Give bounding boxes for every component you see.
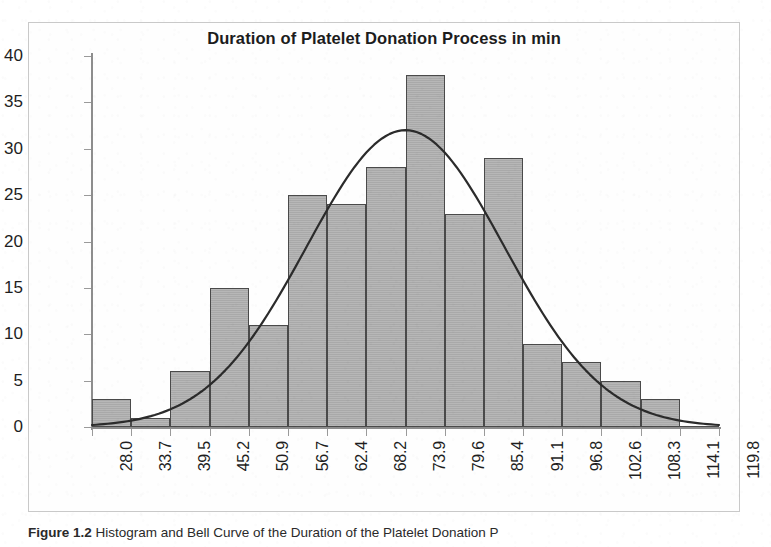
y-axis-tick-label: 35 <box>4 92 23 112</box>
x-axis-tick-label: 119.8 <box>745 441 763 479</box>
x-axis-tick-label: 102.6 <box>627 441 645 480</box>
y-axis-tick-label: 0 <box>14 417 23 437</box>
x-axis-tick <box>445 429 446 436</box>
x-axis-tick-label: 91.1 <box>549 441 567 471</box>
y-axis-tick-label: 10 <box>4 324 23 344</box>
x-axis-tick <box>366 429 367 436</box>
x-axis-tick-label: 96.8 <box>588 441 606 471</box>
y-axis-tick-label: 25 <box>4 185 23 205</box>
y-axis-tick <box>84 427 91 428</box>
x-axis-tick-label: 68.2 <box>392 441 410 471</box>
x-axis-tick <box>92 429 93 436</box>
plot-area <box>92 56 719 427</box>
x-axis-tick-label: 108.3 <box>666 441 684 480</box>
figure-frame: Duration of Platelet Donation Process in… <box>28 22 740 512</box>
y-axis-tick-label: 5 <box>14 371 23 391</box>
x-axis-tick <box>523 429 524 436</box>
chart-title: Duration of Platelet Donation Process in… <box>29 29 739 48</box>
x-axis-tick <box>327 429 328 436</box>
x-axis-tick-label: 50.9 <box>274 441 292 471</box>
y-axis-tick <box>84 242 91 243</box>
caption-text: Histogram and Bell Curve of the Duration… <box>96 525 499 540</box>
x-axis-tick <box>249 429 250 436</box>
x-axis-tick <box>288 429 289 436</box>
x-axis-tick-label: 79.6 <box>470 441 488 471</box>
caption-label: Figure 1.2 <box>28 525 92 540</box>
x-axis-tick-label: 73.9 <box>431 441 449 471</box>
x-axis-tick-label: 28.0 <box>118 441 136 471</box>
x-axis-tick <box>210 429 211 436</box>
x-axis-tick <box>680 429 681 436</box>
x-axis-tick <box>601 429 602 436</box>
x-axis-tick-label: 39.5 <box>196 441 214 471</box>
y-axis-tick <box>84 102 91 103</box>
x-axis-tick-label: 85.4 <box>509 441 527 471</box>
x-axis-tick-label: 45.2 <box>235 441 253 471</box>
y-axis-tick <box>84 381 91 382</box>
x-axis-tick-label: 62.4 <box>353 441 371 471</box>
y-axis-tick <box>84 288 91 289</box>
y-axis-tick-label: 20 <box>4 232 23 252</box>
y-axis-tick-label: 15 <box>4 278 23 298</box>
y-axis-tick <box>84 195 91 196</box>
x-axis-tick <box>719 429 720 436</box>
x-axis-tick-label: 56.7 <box>314 441 332 471</box>
x-axis-tick <box>562 429 563 436</box>
y-axis-tick <box>84 149 91 150</box>
x-axis-tick-label: 33.7 <box>157 441 175 471</box>
x-axis-tick <box>641 429 642 436</box>
y-axis-tick-label: 30 <box>4 139 23 159</box>
x-axis-tick <box>406 429 407 436</box>
x-axis-tick <box>484 429 485 436</box>
bell-curve-line <box>92 56 719 427</box>
y-axis-tick-label: 40 <box>4 46 23 66</box>
y-axis-tick <box>84 56 91 57</box>
x-axis-tick <box>170 429 171 436</box>
figure-caption: Figure 1.2 Histogram and Bell Curve of t… <box>28 525 744 540</box>
x-axis-tick <box>131 429 132 436</box>
y-axis-tick <box>84 334 91 335</box>
x-axis-tick-label: 114.1 <box>705 441 723 479</box>
